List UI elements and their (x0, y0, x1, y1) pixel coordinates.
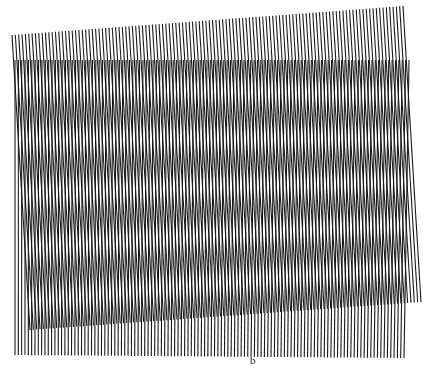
moire-figure (0, 0, 432, 373)
figure-label: b (250, 354, 256, 366)
grating-b (15, 60, 409, 358)
